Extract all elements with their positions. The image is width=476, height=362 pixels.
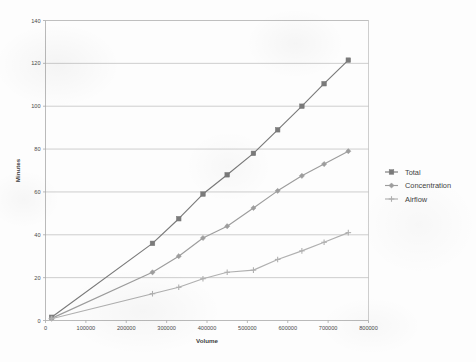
- legend-item-concentration[interactable]: Concentration: [385, 181, 451, 190]
- legend-label: Total: [405, 168, 421, 177]
- series-line: [52, 60, 349, 317]
- y-axis-title: Minutes: [14, 158, 21, 182]
- chart-legend: TotalConcentrationAirflow: [385, 168, 451, 204]
- data-point-marker: [150, 241, 155, 246]
- y-tick-label: 0: [37, 318, 40, 324]
- series-airflow: [49, 230, 351, 322]
- data-point-marker: [389, 183, 394, 188]
- data-point-marker: [389, 170, 394, 175]
- data-point-marker: [176, 284, 182, 290]
- x-tick-label: 600000: [278, 325, 297, 331]
- data-point-marker: [201, 192, 206, 197]
- legend-item-airflow[interactable]: Airflow: [385, 195, 428, 204]
- data-point-marker: [389, 196, 395, 202]
- data-point-marker: [251, 151, 256, 156]
- data-point-marker: [321, 161, 326, 166]
- legend-label: Airflow: [405, 195, 428, 204]
- legend-marker-concentration: [389, 183, 394, 188]
- y-tick-label: 120: [31, 60, 40, 66]
- data-point-marker: [275, 257, 281, 263]
- y-tick-label: 80: [34, 146, 40, 152]
- y-tick-label: 20: [34, 275, 40, 281]
- data-series-group: [49, 58, 351, 322]
- legend-label: Concentration: [405, 181, 451, 190]
- data-point-marker: [321, 239, 327, 245]
- legend-marker-airflow: [389, 196, 395, 202]
- x-tick-label: 400000: [198, 325, 217, 331]
- legend-item-total[interactable]: Total: [385, 168, 421, 177]
- data-point-marker: [322, 81, 327, 86]
- chart-container: 020406080100120140 010000020000030000040…: [0, 0, 476, 362]
- data-point-marker: [150, 270, 155, 275]
- y-tick-label: 60: [34, 189, 40, 195]
- data-point-marker: [224, 269, 230, 275]
- x-tick-label: 100000: [77, 325, 96, 331]
- x-tick-label: 0: [44, 325, 47, 331]
- x-axis-title: Volume: [196, 337, 218, 344]
- data-point-marker: [225, 172, 230, 177]
- x-tick-label: 300000: [157, 325, 176, 331]
- legend-marker-total: [389, 170, 394, 175]
- line-chart: 020406080100120140 010000020000030000040…: [0, 0, 476, 362]
- data-point-marker: [200, 276, 206, 282]
- plot-frame: [46, 21, 369, 321]
- x-tick-label: 500000: [238, 325, 257, 331]
- series-line: [52, 233, 349, 319]
- x-axis-tick-labels: 0100000200000300000400000500000600000700…: [44, 321, 378, 332]
- data-point-marker: [299, 173, 304, 178]
- data-point-marker: [150, 291, 156, 297]
- data-point-marker: [251, 267, 257, 273]
- y-tick-label: 100: [31, 103, 40, 109]
- data-point-marker: [300, 104, 305, 109]
- x-tick-label: 800000: [359, 325, 378, 331]
- x-tick-label: 200000: [117, 325, 136, 331]
- data-point-marker: [346, 58, 351, 63]
- y-axis-tick-labels: 020406080100120140: [31, 18, 45, 324]
- y-tick-label: 40: [34, 232, 40, 238]
- y-tick-label: 140: [31, 18, 40, 24]
- gridlines: [46, 21, 369, 278]
- data-point-marker: [176, 216, 181, 221]
- data-point-marker: [275, 127, 280, 132]
- x-tick-label: 700000: [319, 325, 338, 331]
- data-point-marker: [299, 248, 305, 254]
